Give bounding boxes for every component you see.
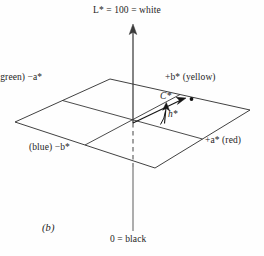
label-lightness-white: L* = 100 = white <box>93 6 161 16</box>
label-hue-angle: h* <box>168 110 178 120</box>
lightness-axis <box>129 24 137 231</box>
panel-caption: (b) <box>42 222 55 233</box>
label-positive-b-yellow: +b* (yellow) <box>165 73 216 83</box>
hue-angle-arrow-line <box>165 108 167 124</box>
chroma-vector-arrowhead <box>176 97 186 104</box>
label-negative-a-green: (green) −a* <box>0 73 42 83</box>
cielab-diagram <box>0 0 264 256</box>
label-lightness-black: 0 = black <box>110 235 146 245</box>
label-positive-a-red: +a* (red) <box>205 136 241 146</box>
figure-container: L* = 100 = white 0 = black (green) −a* +… <box>0 0 264 256</box>
sample-color-point <box>190 97 194 101</box>
label-negative-b-blue: (blue) −b* <box>29 143 70 153</box>
label-chroma: C* <box>160 92 171 102</box>
